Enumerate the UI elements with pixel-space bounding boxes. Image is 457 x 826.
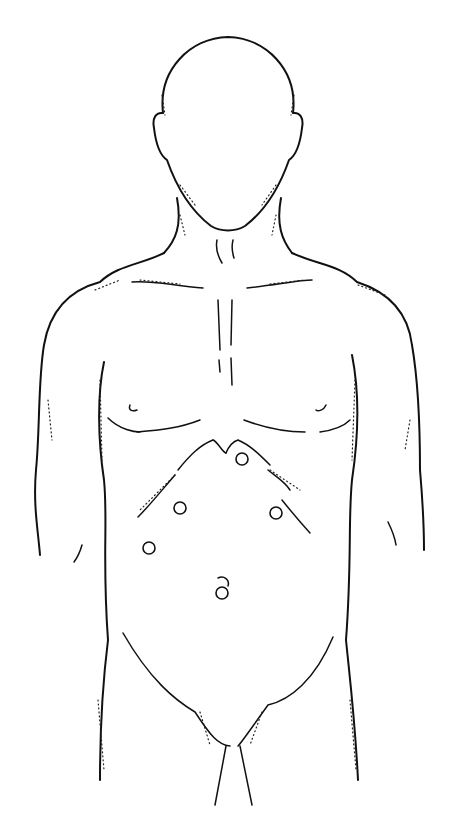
lower-body [123, 633, 333, 805]
port-marker-1 [236, 453, 248, 465]
port-marker-5 [216, 587, 228, 599]
ports [143, 453, 282, 599]
arms-outline [35, 253, 424, 555]
port-marker-2 [174, 502, 186, 514]
torso-sides [74, 355, 396, 780]
port-marker-3 [270, 507, 282, 519]
torso-diagram [0, 0, 457, 826]
chest [108, 280, 350, 432]
torso-illustration [0, 0, 457, 826]
abdomen [138, 440, 310, 586]
port-marker-4 [143, 542, 155, 554]
